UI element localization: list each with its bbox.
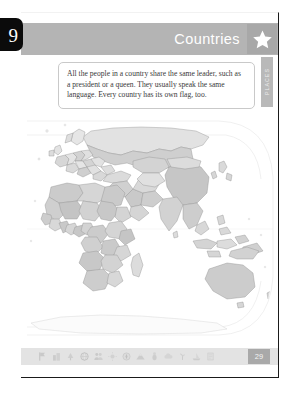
boat-icon[interactable] xyxy=(190,350,203,363)
animal-icon[interactable] xyxy=(148,350,161,363)
flag-icon[interactable] xyxy=(36,350,49,363)
globe-icon[interactable] xyxy=(78,350,91,363)
chapter-number: 9 xyxy=(9,25,19,44)
scroll-icon[interactable] xyxy=(204,350,217,363)
world-map-svg xyxy=(21,101,279,353)
tree-icon[interactable] xyxy=(64,350,77,363)
bottom-toolbar: 29 xyxy=(21,348,279,365)
intro-paragraph: All the people in a country share the sa… xyxy=(67,69,246,101)
compass-icon[interactable] xyxy=(120,350,133,363)
people-icon[interactable] xyxy=(92,350,105,363)
page-number-badge: 29 xyxy=(248,349,270,364)
page-title: Countries xyxy=(174,31,240,47)
world-map[interactable] xyxy=(21,101,279,353)
cloud-icon[interactable] xyxy=(162,350,175,363)
star-icon[interactable] xyxy=(247,24,277,54)
mountain-icon[interactable] xyxy=(134,350,147,363)
intro-text-card: All the people in a country share the sa… xyxy=(58,62,255,109)
sun-icon[interactable] xyxy=(106,350,119,363)
section-tab-label: PLACES xyxy=(264,68,270,95)
page-header: Countries xyxy=(21,23,279,55)
toolbar-icon-group xyxy=(21,350,248,363)
plant-icon[interactable] xyxy=(176,350,189,363)
chapter-tab[interactable]: 9 xyxy=(0,18,23,51)
section-tab[interactable]: PLACES xyxy=(261,57,273,107)
book-page: Countries xyxy=(21,12,279,378)
building-icon[interactable] xyxy=(50,350,63,363)
